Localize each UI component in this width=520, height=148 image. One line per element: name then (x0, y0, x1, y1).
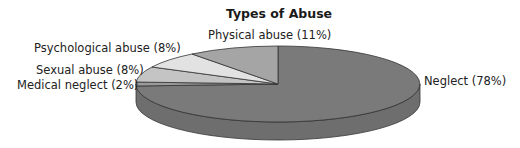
label-sexual-abuse: Sexual abuse (8%) (36, 63, 144, 77)
label-medical-neglect: Medical neglect (2%) (17, 78, 138, 92)
label-psychological-abuse: Psychological abuse (8%) (34, 41, 181, 55)
label-neglect: Neglect (78%) (424, 74, 506, 88)
label-physical-abuse: Physical abuse (11%) (208, 28, 331, 42)
